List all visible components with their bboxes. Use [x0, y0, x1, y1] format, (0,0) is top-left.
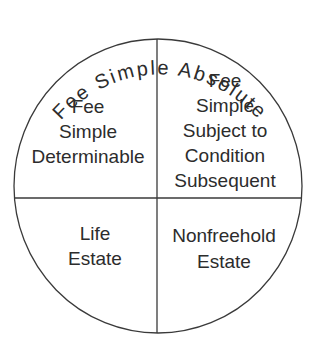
quadrant-fee-simple-determinable: Fee Simple Determinable	[32, 96, 145, 167]
quadrant-label-line: Simple	[59, 121, 117, 142]
quadrant-label-line: Fee	[72, 96, 105, 117]
quadrant-label-line: Condition	[185, 145, 265, 166]
quadrant-label-line: Determinable	[32, 146, 145, 167]
quadrant-label-line: Subsequent	[174, 170, 276, 191]
quadrant-label-line: Simple	[196, 95, 254, 116]
quadrant-label-line: Estate	[197, 251, 251, 272]
estate-types-diagram: Fee Simple Absolute Fee Simple Determina…	[0, 0, 312, 354]
quadrant-label-line: Subject to	[183, 120, 268, 141]
quadrant-label-line: Life	[80, 223, 111, 244]
quadrant-fee-simple-subject-to-condition-subsequent: Fee Simple Subject to Condition Subseque…	[174, 70, 276, 191]
quadrant-label-line: Estate	[68, 248, 122, 269]
quadrant-nonfreehold-estate: Nonfreehold Estate	[172, 225, 276, 272]
quadrant-life-estate: Life Estate	[68, 223, 122, 269]
quadrant-label-line: Fee	[209, 70, 242, 91]
quadrant-label-line: Nonfreehold	[172, 225, 276, 246]
